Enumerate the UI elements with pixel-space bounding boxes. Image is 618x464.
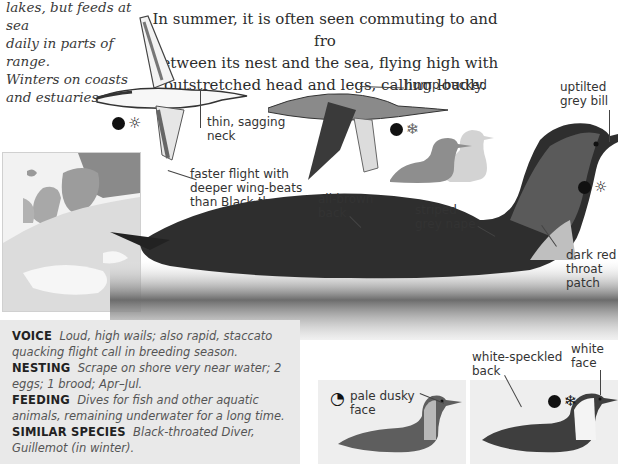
- leader-line: [600, 370, 601, 395]
- species-info: VOICE Loud, high wails; also rapid, stac…: [12, 328, 302, 456]
- inset-winter-adult: [470, 380, 618, 464]
- label-line: face: [571, 356, 604, 370]
- swimming-diver-illustration: [110, 110, 618, 350]
- snowflake-icon: ❄: [564, 392, 577, 410]
- info-key: NESTING: [12, 361, 70, 375]
- label-line: face: [350, 403, 415, 417]
- info-voice: VOICE Loud, high wails; also rapid, stac…: [12, 328, 302, 360]
- label-dark-red-throat-patch: dark red throat patch: [566, 248, 616, 290]
- info-nesting: NESTING Scrape on shore very near water;…: [12, 360, 302, 392]
- label-striped-grey-nape: striped grey nape: [415, 203, 476, 231]
- leader-line: [609, 110, 610, 142]
- label-line: striped: [415, 203, 476, 217]
- sun-icon: ☼: [594, 178, 607, 196]
- info-value: Loud, high wails; also rapid, staccato q…: [12, 329, 272, 359]
- label-line: all-brown: [318, 192, 373, 206]
- label-line: white: [571, 342, 604, 356]
- label-pale-dusky-face: pale dusky face: [350, 389, 415, 417]
- symbol-adult-winter-2: ❄: [548, 392, 577, 410]
- male-female-icon: [548, 395, 561, 408]
- info-key: VOICE: [12, 329, 52, 343]
- label-line: grey bill: [560, 94, 608, 108]
- info-feeding: FEEDING Dives for fish and other aquatic…: [12, 392, 302, 424]
- label-white-speckled-back: white-speckled back: [472, 350, 562, 378]
- info-similar-species: SIMILAR SPECIES Black-throated Diver, Gu…: [12, 424, 302, 456]
- label-line: pale dusky: [350, 389, 415, 403]
- label-line: dark red: [566, 248, 616, 262]
- label-line: patch: [566, 276, 616, 290]
- label-all-brown-back: all-brown back: [318, 192, 373, 220]
- juvenile-icon: ◔: [330, 388, 345, 408]
- label-line: uptilted: [560, 80, 608, 94]
- label-line: grey nape: [415, 217, 476, 231]
- winter-diver-illustration: [470, 380, 618, 464]
- label-line: throat: [566, 262, 616, 276]
- label-uptilted-bill: uptilted grey bill: [560, 80, 608, 108]
- info-key: SIMILAR SPECIES: [12, 425, 126, 439]
- label-line: back: [318, 206, 373, 220]
- male-female-icon: [578, 181, 591, 194]
- info-key: FEEDING: [12, 393, 70, 407]
- label-hump-backed: hump-backed: [405, 78, 487, 92]
- label-white-face: white face: [571, 342, 604, 370]
- symbol-adult-summer-2: ☼: [578, 178, 607, 196]
- symbol-juvenile: ◔: [330, 388, 345, 408]
- label-line: back: [472, 364, 562, 378]
- label-line: white-speckled: [472, 350, 562, 364]
